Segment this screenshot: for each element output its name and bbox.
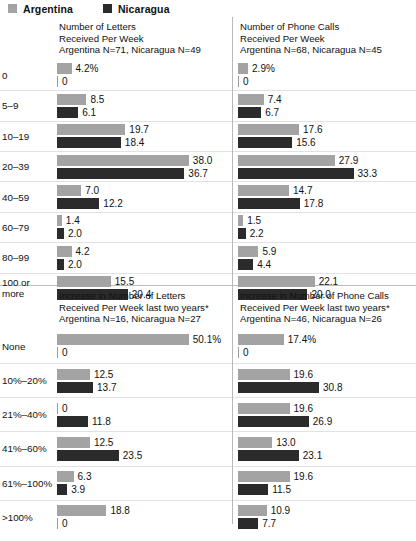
bar-line-argentina: 1.4: [57, 215, 232, 227]
chart-row: 13.023.1: [233, 432, 416, 465]
bar-nicaragua: [57, 168, 184, 179]
bar-group: 19.611.5: [238, 470, 416, 497]
bar-value-argentina: 13.0: [276, 437, 295, 448]
category-label: >100%: [0, 512, 57, 523]
bar-value-argentina: 17.6: [303, 124, 322, 135]
chart-panel-phone-calls-per-week: Number of Phone CallsReceived Per WeekAr…: [232, 17, 416, 285]
bar-nicaragua: [57, 484, 67, 495]
bar-line-nicaragua: 18.4: [57, 137, 232, 149]
bar-value-nicaragua: 15.6: [296, 137, 315, 148]
bar-group: 12.523.5: [57, 435, 232, 462]
bar-group: 4.2%0: [57, 62, 232, 89]
bar-value-argentina: 0: [62, 403, 68, 414]
bar-line-argentina: 38.0: [57, 154, 232, 166]
bar-nicaragua: [57, 347, 59, 358]
bar-line-argentina: 2.9%: [238, 63, 416, 75]
bar-argentina: [238, 403, 290, 414]
bar-line-nicaragua: 6.1: [57, 106, 232, 118]
bar-nicaragua: [57, 382, 93, 393]
chart-panel-increase-phone-calls: Increase in Number of Phone CallsReceive…: [232, 286, 416, 524]
bar-value-nicaragua: 7.7: [262, 518, 276, 529]
bar-group: 4.22.0: [57, 244, 232, 271]
bar-value-argentina: 7.0: [85, 185, 99, 196]
bar-nicaragua: [238, 76, 240, 87]
bar-nicaragua: [238, 484, 268, 495]
bar-argentina: [57, 471, 74, 482]
bar-group: 19.626.9: [238, 401, 416, 428]
bar-group: 12.513.7: [57, 367, 232, 394]
bar-line-nicaragua: 2.0: [57, 258, 232, 270]
bar-value-argentina: 27.9: [339, 155, 358, 166]
bar-argentina: [238, 246, 258, 257]
panel-title-line: Received Per Week last two years*: [240, 302, 412, 314]
bar-line-argentina: 12.5: [57, 436, 232, 448]
bar-argentina: [57, 94, 86, 105]
bar-nicaragua: [238, 168, 354, 179]
bar-argentina: [238, 369, 290, 380]
bar-line-argentina: 8.5: [57, 93, 232, 105]
category-label: 80–99: [0, 252, 57, 263]
bar-group: 1.52.2: [238, 214, 416, 241]
chart-row: 04.2%0: [0, 61, 232, 90]
bar-value-argentina: 4.2: [76, 246, 90, 257]
bar-line-argentina: 7.4: [238, 93, 416, 105]
bar-value-nicaragua: 26.9: [313, 416, 332, 427]
bar-value-nicaragua: 17.8: [304, 198, 323, 209]
bar-argentina: [238, 215, 243, 226]
bar-argentina: [57, 437, 90, 448]
bar-value-nicaragua: 33.3: [358, 168, 377, 179]
bar-group: 14.717.8: [238, 184, 416, 211]
bar-nicaragua: [238, 416, 309, 427]
bar-value-argentina: 5.9: [262, 246, 276, 257]
bar-line-argentina: 27.9: [238, 154, 416, 166]
category-label: 0: [0, 70, 57, 81]
chart-row: 27.933.3: [233, 152, 416, 181]
bar-value-argentina: 7.4: [268, 94, 282, 105]
bar-line-nicaragua: 2.0: [57, 228, 232, 240]
bar-value-argentina: 12.5: [94, 369, 113, 380]
panel-title-line: Argentina N=46, Nicaragua N=26: [240, 313, 412, 325]
bar-line-nicaragua: 2.2: [238, 228, 416, 240]
bar-argentina: [238, 334, 284, 345]
bar-value-argentina: 50.1%: [193, 334, 221, 345]
bar-line-argentina: 14.7: [238, 185, 416, 197]
bar-value-argentina: 1.5: [247, 215, 261, 226]
bar-group: 1.42.0: [57, 214, 232, 241]
bar-argentina: [57, 185, 81, 196]
category-label: 41%–60%: [0, 443, 57, 454]
panel-title-line: Increase in Number of Letters: [59, 290, 228, 302]
bar-value-nicaragua: 6.1: [82, 107, 96, 118]
bar-value-argentina: 10.9: [271, 505, 290, 516]
chart-row: 17.615.6: [233, 122, 416, 151]
bar-value-nicaragua: 2.0: [68, 259, 82, 270]
bar-line-nicaragua: 23.1: [238, 449, 416, 461]
bar-value-nicaragua: 2.0: [68, 228, 82, 239]
bar-line-nicaragua: 17.8: [238, 198, 416, 210]
bar-argentina: [238, 437, 272, 448]
chart-row: 41%–60%12.523.5: [0, 432, 232, 465]
bar-argentina: [57, 369, 90, 380]
bar-argentina: [57, 334, 189, 345]
bar-nicaragua: [238, 518, 258, 529]
chart-row: 61%–100%6.33.9: [0, 467, 232, 500]
bar-value-argentina: 1.4: [66, 215, 80, 226]
bar-line-argentina: 50.1%: [57, 334, 232, 346]
bar-value-argentina: 19.6: [294, 403, 313, 414]
bar-line-nicaragua: 0: [57, 76, 232, 88]
chart-row: 5–98.56.1: [0, 91, 232, 120]
bar-line-nicaragua: 15.6: [238, 137, 416, 149]
chart-row: 19.611.5: [233, 467, 416, 500]
bar-value-nicaragua: 6.7: [265, 107, 279, 118]
bar-group: 17.615.6: [238, 123, 416, 150]
chart-row: 10.97.7: [233, 501, 416, 534]
chart-row: 2.9%0: [233, 61, 416, 90]
bar-line-nicaragua: 0: [57, 518, 232, 530]
bar-argentina: [238, 63, 248, 74]
legend-label-nicaragua: Nicaragua: [118, 3, 170, 15]
bar-line-argentina: 12.5: [57, 368, 232, 380]
bar-value-argentina: 8.5: [90, 94, 104, 105]
bar-argentina: [57, 155, 189, 166]
chart-row: 10–1919.718.4: [0, 122, 232, 151]
bar-line-nicaragua: 11.5: [238, 484, 416, 496]
panel-title-line: Received Per Week last two years*: [59, 302, 228, 314]
